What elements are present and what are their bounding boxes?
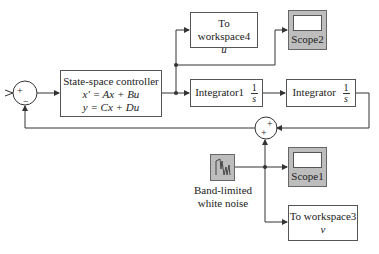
to-workspace3-title: To workspace3 (289, 210, 357, 223)
to-workspace4-block[interactable]: To workspace4 u (190, 12, 258, 48)
integrator-transfer-function: 1 s (343, 83, 350, 104)
to-workspace4-title: To workspace4 (191, 17, 257, 43)
scope2-label: Scope2 (289, 33, 326, 46)
sum2-plus-sign-bottom: + (261, 128, 267, 138)
band-limited-white-noise-block[interactable] (210, 154, 235, 181)
branch-point (174, 63, 178, 67)
sum1-minus-sign: − (23, 97, 29, 107)
noise-caption-line2: white noise (193, 197, 253, 210)
integrator-title: Integrator (292, 86, 335, 98)
scope2-screen (293, 15, 322, 31)
branch-point (263, 165, 267, 169)
state-space-controller-block[interactable]: State-space controller x′ = Ax + Bu y = … (60, 70, 162, 117)
to-workspace4-var: u (191, 43, 257, 56)
controller-equation-2: y = Cx + Du (61, 101, 161, 114)
controller-equation-1: x′ = Ax + Bu (61, 88, 161, 101)
scope2-block[interactable]: Scope2 (288, 10, 327, 50)
noise-waveform-icon (212, 155, 234, 179)
integrator1-transfer-function: 1 s (251, 83, 258, 104)
scope1-screen (293, 152, 322, 168)
integrator1-block[interactable]: Integrator1 1 s (190, 79, 263, 107)
sum1-plus-sign: + (17, 86, 23, 96)
noise-caption-line1: Band-limited (193, 184, 253, 197)
integrator1-title: Integrator1 (195, 86, 244, 98)
to-workspace3-var: v (289, 223, 357, 236)
sum2-plus-sign-right: + (267, 119, 273, 129)
to-workspace3-block[interactable]: To workspace3 v (288, 205, 358, 241)
controller-title: State-space controller (61, 75, 161, 88)
branch-point (174, 91, 178, 95)
scope1-block[interactable]: Scope1 (288, 147, 327, 187)
noise-caption: Band-limited white noise (193, 184, 253, 210)
integrator-block[interactable]: Integrator 1 s (286, 79, 356, 107)
scope1-label: Scope1 (289, 170, 326, 183)
